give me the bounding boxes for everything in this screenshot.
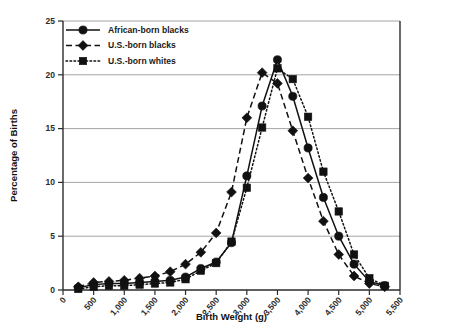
legend-label-1: U.S.-born blacks bbox=[108, 40, 176, 50]
x-tick-label: 2,000 bbox=[169, 295, 191, 318]
marker-diamond bbox=[288, 126, 298, 136]
y-tick-label: 0 bbox=[50, 285, 55, 295]
x-tick-label: 4,000 bbox=[292, 295, 314, 318]
marker-square bbox=[243, 184, 250, 191]
marker-circle bbox=[258, 102, 266, 110]
marker-circle bbox=[273, 56, 281, 64]
marker-square bbox=[335, 208, 342, 215]
y-tick-label: 20 bbox=[46, 70, 56, 80]
marker-diamond bbox=[349, 271, 359, 281]
marker-square bbox=[151, 280, 158, 287]
marker-diamond bbox=[242, 113, 252, 123]
y-axis-title: Percentage of Births bbox=[8, 109, 19, 202]
marker-diamond bbox=[227, 187, 237, 197]
marker-square bbox=[228, 238, 235, 245]
marker-square bbox=[167, 279, 174, 286]
marker-diamond bbox=[257, 68, 267, 78]
marker-square bbox=[90, 283, 97, 290]
marker-circle bbox=[289, 92, 297, 100]
marker-diamond bbox=[334, 250, 344, 260]
marker-square bbox=[289, 75, 296, 82]
x-tick-label: 5,500 bbox=[384, 295, 406, 318]
marker-square bbox=[182, 276, 189, 283]
marker-square bbox=[105, 282, 112, 289]
y-tick-label: 10 bbox=[46, 177, 56, 187]
marker-square bbox=[366, 274, 373, 281]
marker-square bbox=[121, 282, 128, 289]
x-tick-label: 0 bbox=[57, 295, 68, 305]
legend-label-0: African-born blacks bbox=[108, 25, 189, 35]
legend-item-1[interactable]: U.S.-born blacks bbox=[66, 40, 176, 50]
marker-diamond bbox=[319, 216, 329, 226]
marker-square bbox=[212, 259, 219, 266]
x-tick-label: 500 bbox=[82, 295, 99, 313]
marker-square bbox=[304, 113, 311, 120]
marker-circle bbox=[79, 26, 87, 34]
y-tick-label: 15 bbox=[46, 123, 56, 133]
legend-item-0[interactable]: African-born blacks bbox=[66, 25, 189, 35]
marker-circle bbox=[335, 232, 343, 240]
marker-square bbox=[320, 168, 327, 175]
marker-diamond bbox=[78, 41, 88, 51]
marker-circle bbox=[304, 144, 312, 152]
chart-canvas: 051015202505001,0001,5002,0002,5003,0003… bbox=[0, 0, 460, 333]
marker-square bbox=[79, 57, 86, 64]
marker-circle bbox=[350, 260, 358, 268]
legend-label-2: U.S.-born whites bbox=[108, 56, 176, 66]
marker-square bbox=[350, 251, 357, 258]
marker-circle bbox=[319, 193, 327, 201]
marker-square bbox=[136, 281, 143, 288]
marker-square bbox=[75, 285, 82, 292]
legend-item-2[interactable]: U.S.-born whites bbox=[66, 56, 176, 66]
x-tick-label: 5,000 bbox=[353, 295, 375, 318]
marker-square bbox=[197, 267, 204, 274]
y-tick-label: 5 bbox=[50, 231, 55, 241]
marker-square bbox=[274, 65, 281, 72]
series-diamond bbox=[73, 68, 389, 292]
y-tick-label: 25 bbox=[46, 16, 56, 26]
marker-diamond bbox=[303, 173, 313, 183]
x-tick-label: 1,500 bbox=[139, 295, 161, 318]
x-axis-title: Birth Weight (g) bbox=[196, 311, 267, 322]
marker-square bbox=[381, 282, 388, 289]
x-tick-label: 4,500 bbox=[322, 295, 344, 318]
x-tick-label: 1,000 bbox=[108, 295, 130, 318]
marker-diamond bbox=[165, 267, 175, 277]
birth-weight-distribution-chart: 051015202505001,0001,5002,0002,5003,0003… bbox=[0, 0, 460, 333]
marker-square bbox=[258, 124, 265, 131]
